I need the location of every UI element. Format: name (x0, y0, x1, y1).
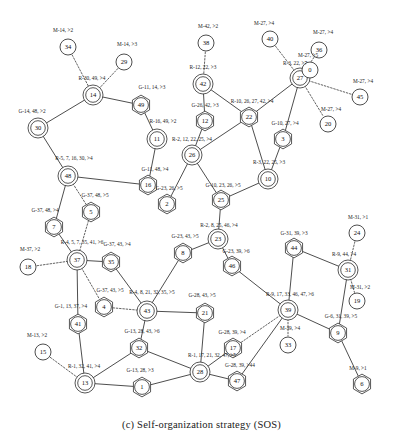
node-35[interactable]: 35 (102, 252, 119, 272)
node-label-43: 43 (144, 307, 151, 314)
edge-43-8 (152, 261, 179, 304)
node-label-35: 35 (108, 258, 115, 265)
node-2[interactable]: 2 (158, 194, 175, 214)
edge-label-5: R-16, 49, >2 (150, 118, 177, 124)
edge-label-25: G-28, 39, >44 (225, 362, 255, 368)
edge-34-14 (72, 55, 89, 87)
node-14[interactable]: 14 (83, 85, 103, 105)
node-18[interactable]: 18 (20, 259, 36, 275)
edge-label-9: G-37, 48, >4 (31, 207, 58, 213)
edge-label-33: G-26, 42, >3 (191, 102, 218, 108)
edge-30-48 (43, 136, 63, 169)
node-49[interactable]: 49 (132, 95, 149, 115)
edge-label-12: R-4, 5, 7, 35, 41, >6 (61, 239, 104, 245)
node-20[interactable]: 20 (320, 116, 336, 132)
nodes-layer: 3429144930114816572183735844143213215131… (20, 31, 371, 397)
edge-label-1: M-14, >3 (117, 41, 137, 47)
node-label-28: 28 (197, 368, 204, 375)
node-label-27: 27 (297, 74, 304, 81)
node-4[interactable]: 4 (95, 297, 112, 317)
edge-label-4: G-14, 48, >2 (18, 108, 45, 114)
node-48[interactable]: 48 (58, 166, 78, 186)
edge-label-24: G-28, 39, >4 (218, 329, 245, 335)
node-33[interactable]: 33 (280, 337, 296, 353)
node-25[interactable]: 25 (212, 190, 229, 210)
node-15[interactable]: 15 (35, 344, 51, 360)
node-21[interactable]: 21 (196, 303, 213, 323)
node-label-47: 47 (234, 377, 241, 384)
edge-label-6: R-5, 7, 16, 30, >4 (55, 155, 93, 161)
node-1[interactable]: 1 (133, 377, 150, 397)
edge-label-42: G-31, 39, >3 (280, 230, 307, 236)
node-47[interactable]: 47 (228, 371, 245, 391)
edge-label-31: R-3, 22, >7 (283, 60, 308, 66)
node-label-29: 29 (121, 58, 128, 65)
node-37[interactable]: 37 (67, 250, 87, 270)
node-label-17: 17 (230, 344, 237, 351)
node-19[interactable]: 19 (349, 293, 365, 309)
node-16[interactable]: 16 (139, 175, 156, 195)
node-43[interactable]: 43 (137, 301, 157, 321)
node-38[interactable]: 38 (198, 35, 214, 51)
edge-label-43: R-9, 44, >4 (332, 251, 357, 257)
node-28[interactable]: 28 (190, 362, 210, 382)
node-label-16: 16 (145, 181, 152, 188)
node-24[interactable]: 24 (349, 225, 365, 241)
edge-label-49: M-9, >1 (349, 365, 367, 371)
node-26[interactable]: 26 (182, 145, 202, 165)
node-7[interactable]: 7 (45, 217, 62, 237)
node-label-30: 30 (35, 124, 42, 131)
edge-label-21: R-1, 32, 41, >4 (68, 363, 100, 369)
edge-label-3: G-11, 14, >3 (139, 84, 166, 90)
node-8[interactable]: 8 (174, 243, 191, 263)
node-9[interactable]: 9 (329, 323, 346, 343)
node-label-40: 40 (267, 35, 274, 42)
node-29[interactable]: 29 (116, 54, 132, 70)
node-6[interactable]: 6 (353, 374, 370, 394)
node-label-15: 15 (40, 348, 47, 355)
edge-5-37 (80, 221, 89, 252)
node-41[interactable]: 41 (69, 314, 86, 334)
edge-label-17: R-4, 8, 21, 32, 35, >5 (129, 289, 175, 295)
edge-label-45: M-31, >2 (350, 284, 370, 290)
node-5[interactable]: 5 (82, 202, 99, 222)
node-40[interactable]: 40 (262, 31, 278, 47)
node-44[interactable]: 44 (285, 238, 302, 258)
node-label-34: 34 (65, 43, 72, 50)
node-32[interactable]: 32 (130, 338, 147, 358)
edge-27-45 (309, 81, 352, 95)
edge-1-28 (151, 374, 192, 384)
node-13[interactable]: 13 (75, 373, 95, 393)
node-label-13: 13 (82, 379, 89, 386)
node-46[interactable]: 46 (223, 256, 240, 276)
edge-label-15: G-37, 43, >5 (96, 287, 123, 293)
node-11[interactable]: 11 (147, 129, 167, 149)
edge-label-20: M-13, >2 (27, 332, 47, 338)
node-22[interactable]: 22 (240, 107, 257, 127)
node-label-14: 14 (90, 91, 97, 98)
node-45[interactable]: 45 (352, 89, 368, 105)
node-42[interactable]: 42 (193, 74, 213, 94)
edge-14-30 (46, 100, 86, 124)
node-3[interactable]: 3 (274, 129, 291, 149)
edge-28-47 (209, 374, 229, 379)
edge-label-23: R-1, 17, 21, 32, 47, >5 (188, 352, 236, 358)
edge-32-28 (147, 351, 191, 368)
node-12[interactable]: 12 (196, 111, 213, 131)
node-34[interactable]: 34 (60, 39, 76, 55)
edge-label-48: G-6, 31, 39, >5 (325, 313, 358, 319)
edge-label-16: G-1, 13, 37, >4 (55, 303, 88, 309)
node-30[interactable]: 30 (28, 118, 48, 138)
node-label-38: 38 (203, 39, 210, 46)
node-39[interactable]: 39 (278, 300, 298, 320)
node-label-39: 39 (285, 306, 292, 313)
edge-label-7: G-11, 48, >4 (142, 166, 169, 172)
node-label-42: 42 (200, 80, 207, 87)
node-31[interactable]: 31 (338, 260, 358, 280)
node-10[interactable]: 10 (258, 169, 278, 189)
edge-4-43 (113, 308, 138, 310)
edge-14-49 (102, 97, 132, 103)
node-23[interactable]: 23 (208, 229, 228, 249)
node-label-24: 24 (354, 229, 361, 236)
node-label-11: 11 (154, 135, 160, 142)
